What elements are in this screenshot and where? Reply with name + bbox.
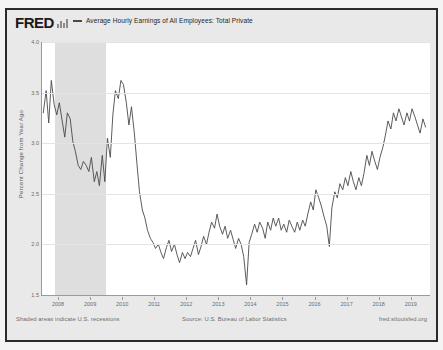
chart-header: FRED Average Hourly Earnings of All Empl… <box>7 10 436 36</box>
chart-area: Percent Change from Year Ago 4.03.53.02.… <box>7 36 436 310</box>
y-tick-label: 3.0 <box>21 140 39 146</box>
x-tick-mark <box>218 297 219 300</box>
x-tick-mark <box>282 297 283 300</box>
x-tick-mark <box>154 297 155 300</box>
source-note: Source: U.S. Bureau of Labor Statistics <box>182 316 287 322</box>
x-tick-label: 2014 <box>244 301 256 307</box>
y-tick-label: 4.0 <box>21 39 39 45</box>
x-tick-label: 2017 <box>341 301 353 307</box>
x-tick-label: 2009 <box>84 301 96 307</box>
recession-note: Shaded areas indicate U.S. recessions <box>16 316 120 322</box>
chart-footer: Shaded areas indicate U.S. recessions So… <box>7 316 436 330</box>
x-axis-ticks: 2008200920102011201220132014201520162017… <box>42 297 430 311</box>
gridline <box>42 42 430 43</box>
chart-frame: FRED Average Hourly Earnings of All Empl… <box>5 8 438 342</box>
x-tick-label: 2012 <box>180 301 192 307</box>
series-line <box>42 42 430 295</box>
x-tick-mark <box>411 297 412 300</box>
chart-panel: FRED Average Hourly Earnings of All Empl… <box>7 10 436 340</box>
x-tick-label: 2008 <box>52 301 64 307</box>
fred-logo[interactable]: FRED <box>15 15 54 30</box>
screenshot-root: FRED Average Hourly Earnings of All Empl… <box>0 0 443 350</box>
plot-area[interactable] <box>42 42 430 295</box>
x-tick-mark <box>90 297 91 300</box>
gridline <box>42 93 430 94</box>
x-tick-label: 2015 <box>276 301 288 307</box>
y-tick-label: 2.0 <box>21 241 39 247</box>
y-tick-label: 1.5 <box>21 292 39 298</box>
gridline <box>42 143 430 144</box>
bar-chart-icon <box>57 18 68 28</box>
x-tick-label: 2016 <box>308 301 320 307</box>
x-tick-label: 2011 <box>148 301 160 307</box>
x-tick-mark <box>379 297 380 300</box>
x-tick-mark <box>250 297 251 300</box>
x-tick-mark <box>122 297 123 300</box>
gridline <box>42 194 430 195</box>
x-tick-mark <box>186 297 187 300</box>
chart-legend[interactable]: Average Hourly Earnings of All Employees… <box>73 17 253 24</box>
x-tick-mark <box>347 297 348 300</box>
y-axis-ticks: 4.03.53.02.52.01.5 <box>21 36 39 310</box>
legend-line-swatch <box>73 20 82 22</box>
x-axis-line <box>42 295 430 296</box>
x-tick-label: 2018 <box>373 301 385 307</box>
gridline <box>42 244 430 245</box>
y-tick-label: 3.5 <box>21 90 39 96</box>
x-tick-mark <box>58 297 59 300</box>
y-tick-label: 2.5 <box>21 191 39 197</box>
legend-series-label: Average Hourly Earnings of All Employees… <box>86 17 253 24</box>
x-tick-label: 2010 <box>116 301 128 307</box>
x-tick-label: 2013 <box>212 301 224 307</box>
fred-url[interactable]: fred.stlouisfed.org <box>379 316 427 322</box>
x-tick-mark <box>315 297 316 300</box>
x-tick-label: 2019 <box>405 301 417 307</box>
